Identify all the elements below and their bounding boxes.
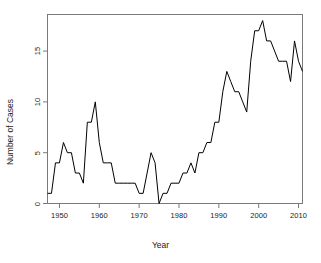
x-tick-label: 1980 bbox=[170, 211, 187, 220]
y-axis-title: Number of Cases bbox=[5, 98, 15, 164]
x-axis-title: Year bbox=[152, 240, 169, 250]
x-tick-label: 1970 bbox=[131, 211, 148, 220]
y-tick-label: 15 bbox=[32, 47, 41, 56]
y-tick-label: 10 bbox=[32, 98, 41, 107]
chart-figure: 1950196019701980199020002010 051015 Year… bbox=[0, 0, 321, 263]
line-chart-canvas bbox=[0, 0, 321, 263]
x-tick-label: 1990 bbox=[210, 211, 227, 220]
y-tick-label: 5 bbox=[32, 151, 41, 155]
chart-background bbox=[0, 0, 321, 263]
x-tick-label: 1950 bbox=[51, 211, 68, 220]
y-tick-label: 0 bbox=[32, 201, 41, 205]
x-tick-label: 2000 bbox=[250, 211, 267, 220]
x-tick-label: 1960 bbox=[91, 211, 108, 220]
x-tick-label: 2010 bbox=[290, 211, 307, 220]
